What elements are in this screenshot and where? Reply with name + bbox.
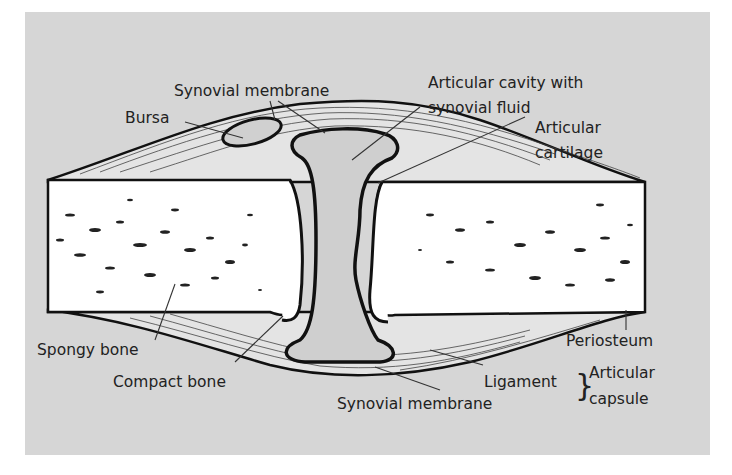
label-bursa: Bursa — [125, 109, 169, 127]
label-compact-bone: Compact bone — [113, 373, 226, 391]
label-periosteum: Periosteum — [566, 332, 653, 350]
left-bone — [48, 180, 298, 315]
synovial-joint-diagram: Synovial membrane Bursa Articular cavity… — [0, 0, 732, 475]
label-articular-cartilage-2: cartilage — [535, 144, 603, 162]
label-articular-cavity-1: Articular cavity with — [428, 74, 583, 92]
label-synovial-membrane-top: Synovial membrane — [174, 82, 329, 100]
label-synovial-membrane-bottom: Synovial membrane — [337, 395, 492, 413]
label-articular-cavity-2: synovial fluid — [428, 99, 531, 117]
right-bone — [372, 182, 645, 316]
label-ligament: Ligament — [484, 373, 557, 391]
label-articular-capsule-2: capsule — [589, 390, 649, 408]
label-articular-capsule-1: Articular — [589, 364, 656, 382]
label-spongy-bone: Spongy bone — [37, 341, 139, 359]
label-articular-cartilage-1: Articular — [535, 119, 602, 137]
